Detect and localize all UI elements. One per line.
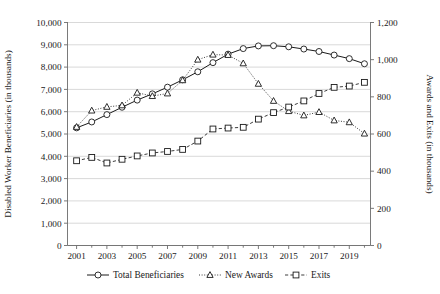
x-axis-tick-label: 2001 [67, 251, 86, 261]
data-point-square [104, 160, 110, 166]
data-point-square [301, 98, 307, 104]
right-axis-tick-label: 1,200 [377, 18, 398, 28]
data-point-triangle [301, 112, 307, 118]
series-total-beneficiaries [74, 43, 368, 131]
data-point-triangle [240, 60, 246, 66]
data-point-triangle [164, 90, 170, 96]
legend-marker-square [293, 272, 299, 278]
series-line-0 [77, 46, 365, 128]
x-axis-tick-label: 2019 [340, 251, 359, 261]
left-axis-tick-label: 6,000 [41, 107, 62, 117]
data-point-triangle [361, 130, 367, 136]
data-point-square [119, 156, 125, 162]
data-point-square [331, 84, 337, 90]
data-point-square [149, 150, 155, 156]
dual-axis-line-chart: 01,0002,0003,0004,0005,0006,0007,0008,00… [0, 0, 440, 294]
right-axis-title: Awards and Exits (in thousands) [425, 74, 435, 193]
data-point-square [346, 83, 352, 89]
data-point-triangle [104, 103, 110, 109]
series-new-awards [73, 51, 367, 136]
data-point-square [210, 126, 216, 132]
data-point-circle [286, 44, 292, 50]
left-axis-title: Disabled Worker Beneficiaries (in thousa… [3, 50, 13, 217]
legend-label-1: New Awards [225, 270, 273, 280]
right-axis-tick-label: 1,000 [377, 55, 398, 65]
data-point-circle [195, 69, 201, 75]
left-axis-tick-label: 1,000 [41, 219, 62, 229]
legend-marker-triangle [207, 272, 213, 278]
data-point-triangle [255, 80, 261, 86]
left-axis-tick-label: 3,000 [41, 174, 62, 184]
data-point-triangle [331, 117, 337, 123]
legend-item-exits: Exits [285, 270, 331, 280]
left-axis-tick-label: 2,000 [41, 196, 62, 206]
data-point-square [195, 138, 201, 144]
data-point-circle [240, 46, 246, 52]
data-point-square [74, 158, 80, 164]
data-point-circle [255, 43, 261, 49]
data-point-circle [271, 43, 277, 49]
left-axis-tick-label: 0 [57, 241, 62, 251]
legend-label-0: Total Beneficiaries [113, 270, 184, 280]
right-axis-tick-label: 400 [377, 166, 391, 176]
x-axis-tick-label: 2003 [98, 251, 117, 261]
data-point-circle [331, 52, 337, 58]
data-point-square [362, 79, 368, 85]
data-point-square [134, 153, 140, 159]
data-point-circle [316, 48, 322, 54]
data-point-circle [134, 97, 140, 103]
left-axis-tick-label: 7,000 [41, 85, 62, 95]
x-axis-tick-label: 2007 [158, 251, 177, 261]
data-point-circle [89, 119, 95, 125]
chart-figure: 01,0002,0003,0004,0005,0006,0007,0008,00… [0, 0, 440, 294]
data-point-circle [346, 56, 352, 62]
legend-label-2: Exits [311, 270, 331, 280]
data-point-square [316, 91, 322, 97]
right-axis-tick-label: 600 [377, 129, 391, 139]
right-axis-tick-label: 800 [377, 92, 391, 102]
data-point-triangle [210, 51, 216, 57]
data-point-triangle [134, 89, 140, 95]
data-point-square [165, 149, 171, 155]
right-axis-tick-label: 0 [377, 241, 382, 251]
data-point-triangle [89, 107, 95, 113]
data-point-circle [361, 61, 367, 67]
x-axis-tick-label: 2009 [189, 251, 208, 261]
right-axis-tick-label: 200 [377, 204, 391, 214]
data-point-circle [104, 112, 110, 118]
data-point-square [225, 125, 231, 131]
left-axis-tick-label: 10,000 [36, 18, 62, 28]
chart-legend: Total BeneficiariesNew AwardsExits [87, 270, 331, 280]
series-exits [74, 79, 368, 165]
data-point-square [271, 110, 277, 116]
data-point-circle [210, 60, 216, 66]
x-axis-tick-label: 2013 [249, 251, 268, 261]
left-axis-tick-label: 4,000 [41, 152, 62, 162]
x-axis-tick-label: 2011 [219, 251, 237, 261]
left-axis-tick-label: 5,000 [41, 129, 62, 139]
legend-item-total-beneficiaries: Total Beneficiaries [87, 270, 184, 280]
x-axis-tick-label: 2015 [280, 251, 299, 261]
data-point-square [286, 104, 292, 110]
data-point-square [240, 124, 246, 130]
data-point-circle [301, 46, 307, 52]
data-point-square [89, 155, 95, 161]
data-point-square [255, 116, 261, 122]
left-axis-tick-label: 9,000 [41, 40, 62, 50]
x-axis-tick-label: 2005 [128, 251, 147, 261]
x-axis-tick-label: 2017 [310, 251, 329, 261]
legend-item-new-awards: New Awards [199, 270, 273, 280]
left-axis-tick-label: 8,000 [41, 62, 62, 72]
data-point-square [180, 147, 186, 153]
legend-marker-circle [95, 272, 101, 278]
